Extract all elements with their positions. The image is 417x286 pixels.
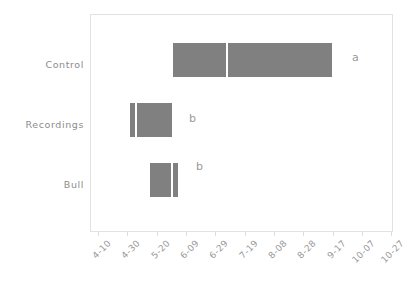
xtick-mark <box>245 232 246 236</box>
chart-container: Control Recordings Bull 4-10 4-30 5-20 6… <box>0 0 417 286</box>
xtick-mark <box>391 232 392 236</box>
xtick-mark <box>215 232 216 236</box>
range-bar-bull <box>150 163 178 197</box>
ytick-label-control: Control <box>0 59 84 70</box>
range-bar-control <box>173 43 332 77</box>
ytick-label-bull: Bull <box>0 179 84 190</box>
ytick-label-recordings: Recordings <box>0 119 84 130</box>
xtick-mark <box>157 232 158 236</box>
xtick-mark <box>303 232 304 236</box>
annotation-letter-control: a <box>352 51 359 64</box>
xtick-mark <box>186 232 187 236</box>
range-bar-recordings <box>130 103 172 137</box>
xtick-mark <box>274 232 275 236</box>
median-line-control <box>226 43 228 77</box>
xtick-mark <box>127 232 128 236</box>
xtick-mark <box>98 232 99 236</box>
xtick-mark <box>333 232 334 236</box>
xtick-mark <box>362 232 363 236</box>
median-line-recordings <box>135 103 137 137</box>
annotation-letter-recordings: b <box>189 112 196 125</box>
median-line-bull <box>171 163 173 197</box>
annotation-letter-bull: b <box>196 160 203 173</box>
